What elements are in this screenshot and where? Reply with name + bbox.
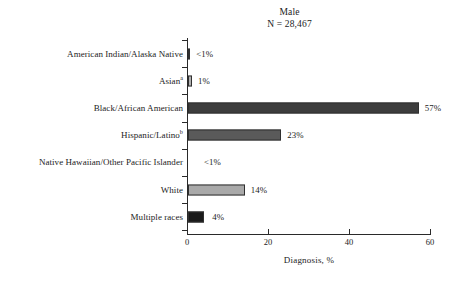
- bar-value-label: 4%: [212, 212, 224, 222]
- bar: [188, 184, 245, 195]
- x-axis-tick-label: 20: [253, 237, 283, 247]
- bar-row: Native Hawaiian/Other Pacific Islander<1…: [0, 149, 459, 176]
- bar-row: Multiple races4%: [0, 203, 459, 230]
- bar-value-label: 14%: [251, 185, 267, 195]
- category-label: American Indian/Alaska Native: [67, 48, 183, 59]
- bar-row: White14%: [0, 176, 459, 203]
- category-label: Black/African American: [94, 102, 183, 113]
- chart-figure: Male N = 28,467 American Indian/Alaska N…: [0, 0, 459, 284]
- bar-value-label: <1%: [204, 157, 221, 167]
- y-axis-tick: [182, 176, 187, 177]
- category-label: Native Hawaiian/Other Pacific Islander: [39, 157, 183, 168]
- bar-value-label: 57%: [425, 103, 441, 113]
- x-axis-line: [187, 234, 431, 235]
- plot-area: American Indian/Alaska Native<1%Asiana1%…: [0, 0, 459, 284]
- x-axis-tick-label: 60: [415, 237, 445, 247]
- y-axis-tick: [182, 94, 187, 95]
- bar-value-label: <1%: [196, 49, 213, 59]
- category-label: Multiple races: [131, 211, 183, 222]
- bar-value-label: 23%: [287, 130, 303, 140]
- category-label: White: [161, 184, 183, 195]
- x-axis-tick: [187, 229, 188, 234]
- x-axis-tick: [268, 229, 269, 234]
- y-axis-tick: [182, 40, 187, 41]
- bar-row: American Indian/Alaska Native<1%: [0, 40, 459, 67]
- bar: [188, 48, 190, 59]
- bar-value-label: 1%: [198, 76, 210, 86]
- y-axis-tick: [182, 203, 187, 204]
- y-axis-tick: [182, 149, 187, 150]
- bar-row: Hispanic/Latinob23%: [0, 122, 459, 149]
- bar: [188, 102, 419, 113]
- category-label: Asiana: [159, 75, 183, 86]
- footnote-marker: b: [180, 128, 183, 135]
- x-axis-tick-label: 0: [172, 237, 202, 247]
- category-label: Hispanic/Latinob: [121, 130, 183, 141]
- y-axis-tick: [182, 122, 187, 123]
- y-axis-tick: [182, 67, 187, 68]
- footnote-marker: a: [180, 73, 183, 80]
- bar: [188, 211, 204, 222]
- bar: [188, 130, 281, 141]
- bar-row: Black/African American57%: [0, 94, 459, 121]
- bar: [188, 75, 192, 86]
- x-axis-title: Diagnosis, %: [187, 255, 431, 265]
- x-axis-tick-label: 40: [334, 237, 364, 247]
- x-axis-tick: [430, 229, 431, 234]
- x-axis-tick: [349, 229, 350, 234]
- bar-row: Asiana1%: [0, 67, 459, 94]
